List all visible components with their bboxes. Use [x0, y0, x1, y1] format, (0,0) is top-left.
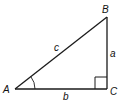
vertex-label-c: C [110, 86, 118, 97]
vertex-label-b: B [102, 4, 109, 15]
angle-arc-a [31, 77, 35, 89]
right-triangle-diagram: A B C c a b [0, 0, 124, 104]
vertex-label-a: A [2, 84, 10, 95]
side-label-a: a [110, 48, 116, 59]
side-label-c: c [54, 42, 59, 53]
side-c [15, 17, 107, 89]
right-angle-marker [95, 77, 107, 89]
side-label-b: b [63, 91, 69, 102]
